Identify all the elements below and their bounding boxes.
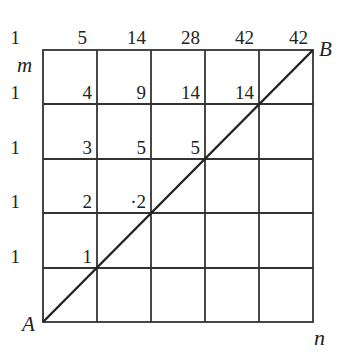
point-a-label: A bbox=[22, 315, 35, 334]
top-label-4: 42 bbox=[224, 28, 254, 47]
top-label-5: 42 bbox=[278, 28, 308, 47]
axis-m-label: m bbox=[17, 56, 32, 75]
row1-left: 1 bbox=[0, 83, 20, 102]
row1-val-0: 4 bbox=[62, 83, 92, 102]
row1-val-2: 14 bbox=[170, 83, 200, 102]
row2-val-2: 5 bbox=[170, 138, 200, 157]
top-label-3: 28 bbox=[170, 28, 200, 47]
row1-val-1: 9 bbox=[116, 83, 146, 102]
top-label-2: 14 bbox=[116, 28, 146, 47]
row3-val-1: ·2 bbox=[116, 192, 146, 211]
row4-left: 1 bbox=[0, 247, 20, 266]
top-label-0: 1 bbox=[0, 28, 20, 47]
row2-left: 1 bbox=[0, 138, 20, 157]
top-label-1: 5 bbox=[57, 28, 87, 47]
point-b-label: B bbox=[319, 40, 332, 59]
row2-val-1: 5 bbox=[116, 138, 146, 157]
row1-val-3: 14 bbox=[224, 83, 254, 102]
row3-left: 1 bbox=[0, 192, 20, 211]
axis-n-label: n bbox=[314, 328, 325, 347]
lattice-path-diagram: 1 5 14 28 42 42 B m 1 4 9 14 14 1 3 5 5 … bbox=[0, 0, 352, 363]
row4-val-0: 1 bbox=[62, 247, 92, 266]
row2-val-0: 3 bbox=[62, 138, 92, 157]
row3-val-0: 2 bbox=[62, 192, 92, 211]
grid-svg bbox=[0, 0, 352, 363]
